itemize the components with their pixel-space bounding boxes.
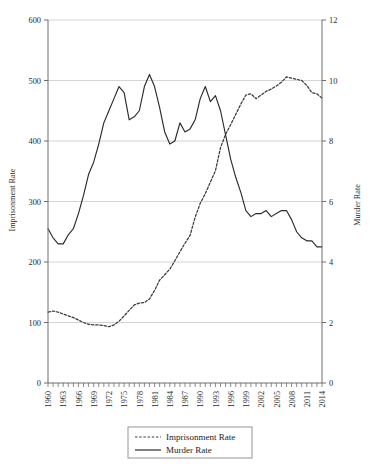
- left-axis-tick-label: 200: [28, 258, 41, 267]
- left-axis-tick-label: 400: [28, 137, 41, 146]
- x-axis-tick-label: 1966: [75, 391, 84, 407]
- right-axis-tick-label: 12: [329, 16, 337, 25]
- left-axis-title: Imprisonment Rate: [8, 168, 17, 231]
- x-axis-tick-label: 2011: [303, 391, 312, 407]
- chart-figure: 0100200300400500600 024681012 1960196319…: [0, 0, 373, 466]
- left-axis-tick-label: 600: [28, 16, 41, 25]
- x-axis-tick-label: 1975: [120, 391, 129, 407]
- x-axis-tick-label: 1963: [59, 391, 68, 407]
- left-axis-tick-label: 100: [28, 319, 41, 328]
- x-axis-tick-label: 1969: [90, 391, 99, 407]
- x-axis-tick-label: 1996: [227, 391, 236, 407]
- x-axis-tick-label: 1960: [44, 391, 53, 407]
- chart-legend: Imprisonment RateMurder Rate: [128, 427, 252, 458]
- right-axis-title: Murder Rate: [353, 184, 362, 226]
- dual-axis-line-chart: 0100200300400500600 024681012 1960196319…: [0, 0, 373, 466]
- x-axis-tick-label: 1978: [136, 391, 145, 407]
- left-axis-tick-label: 0: [37, 379, 41, 388]
- x-axis-tick-label: 1993: [212, 391, 221, 407]
- x-axis-tick-label: 1999: [242, 391, 251, 407]
- left-axis-tick-label: 300: [28, 198, 41, 207]
- legend-label-murder-rate: Murder Rate: [166, 445, 212, 455]
- x-axis-tick-label: 1981: [151, 391, 160, 407]
- right-axis-tick-label: 2: [329, 319, 333, 328]
- right-axis-tick-label: 6: [329, 198, 333, 207]
- right-axis-tick-label: 8: [329, 137, 333, 146]
- x-axis-tick-label: 1990: [196, 391, 205, 407]
- x-axis-tick-label: 2002: [257, 391, 266, 407]
- x-axis-tick-label: 2014: [318, 391, 327, 407]
- right-axis-tick-label: 0: [329, 379, 333, 388]
- legend-label-imprisonment-rate: Imprisonment Rate: [166, 432, 235, 442]
- x-axis-tick-label: 2008: [288, 391, 297, 407]
- right-axis-tick-label: 10: [329, 77, 337, 86]
- x-axis-tick-label: 1972: [105, 391, 114, 407]
- x-axis-tick-label: 1984: [166, 391, 175, 407]
- left-axis-tick-label: 500: [28, 77, 41, 86]
- x-axis-tick-label: 2005: [273, 391, 282, 407]
- x-axis-tick-label: 1987: [181, 391, 190, 407]
